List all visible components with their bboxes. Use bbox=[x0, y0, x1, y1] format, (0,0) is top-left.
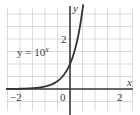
x-tick-label-2: 2 bbox=[117, 91, 123, 103]
y-axis-label: y bbox=[72, 2, 78, 14]
x-tick-label-0: 0 bbox=[60, 91, 66, 103]
annotation-base: y = 10 bbox=[17, 46, 46, 58]
annotation-exponent: x bbox=[44, 45, 49, 54]
exponential-chart: y x −2 0 2 2 y = 10x bbox=[0, 0, 140, 115]
x-axis-label: x bbox=[126, 76, 132, 88]
curve-annotation: y = 10x bbox=[17, 45, 49, 58]
y-tick-label-2: 2 bbox=[61, 33, 67, 45]
x-tick-label-neg2: −2 bbox=[10, 91, 22, 103]
